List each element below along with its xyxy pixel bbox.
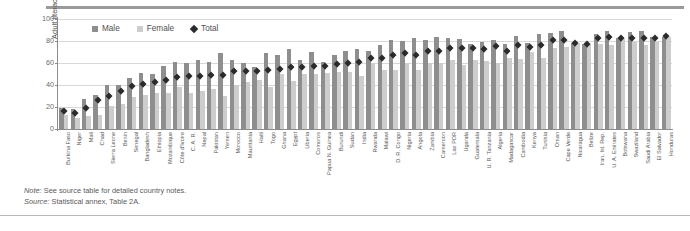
bar-female: [177, 87, 182, 129]
bar-female: [246, 82, 251, 129]
bar-female: [359, 76, 364, 129]
bar-group[interactable]: [59, 19, 68, 129]
bar-group[interactable]: [525, 19, 534, 129]
bar-group[interactable]: [127, 19, 136, 129]
bar-group[interactable]: [423, 19, 432, 129]
bar-group[interactable]: [412, 19, 421, 129]
legend-item-total[interactable]: Total: [191, 24, 218, 33]
bar-group[interactable]: [173, 19, 182, 129]
x-axis-tick-label: Egypt: [293, 132, 299, 146]
bar-female: [428, 63, 433, 129]
x-axis-tick-label: Sudan: [350, 132, 356, 148]
bar-group[interactable]: [196, 19, 205, 129]
x-axis-tick-label: D. R. Congo: [396, 132, 402, 163]
bar-group[interactable]: [537, 19, 546, 129]
bar-group[interactable]: [366, 19, 375, 129]
diamond-marker-total: [503, 47, 511, 55]
bar-female: [462, 65, 467, 129]
x-axis-tick-label: Morocco: [236, 132, 242, 153]
bar-group[interactable]: [480, 19, 489, 129]
bar-group[interactable]: [105, 19, 114, 129]
bar-group[interactable]: [264, 19, 273, 129]
bar-group[interactable]: [252, 19, 261, 129]
bar-group[interactable]: [184, 19, 193, 129]
x-axis-tick-label: Angola: [418, 132, 424, 149]
bar-group[interactable]: [71, 19, 80, 129]
bar-group[interactable]: [230, 19, 239, 129]
bar-group[interactable]: [548, 19, 557, 129]
bar-group[interactable]: [93, 19, 102, 129]
bar-female: [632, 42, 637, 129]
bar-group[interactable]: [343, 19, 352, 129]
bar-group[interactable]: [309, 19, 318, 129]
x-axis-tick-label: Papua N. Guinea: [327, 132, 333, 175]
bar-female: [564, 47, 569, 130]
bar-group[interactable]: [468, 19, 477, 129]
note-key: Note:: [24, 186, 42, 195]
bar-female: [64, 115, 69, 129]
x-axis-tick-label: Burundi: [339, 132, 345, 151]
bar-group[interactable]: [628, 19, 637, 129]
bar-female: [325, 73, 330, 129]
bar-group[interactable]: [378, 19, 387, 129]
y-axis-tick-label: 0: [24, 125, 54, 132]
x-axis-tick-label: Ethiopia: [157, 132, 163, 152]
bar-female: [155, 93, 160, 129]
bar-group[interactable]: [298, 19, 307, 129]
x-axis-tick-label: Cape Verde: [566, 132, 572, 162]
bar-group[interactable]: [605, 19, 614, 129]
bar-group[interactable]: [400, 19, 409, 129]
bar-group[interactable]: [434, 19, 443, 129]
bar-group[interactable]: [332, 19, 341, 129]
legend-item-male[interactable]: Male: [92, 24, 120, 33]
bar-group[interactable]: [355, 19, 364, 129]
bar-group[interactable]: [616, 19, 625, 129]
bar-group[interactable]: [503, 19, 512, 129]
bar-female: [609, 45, 614, 129]
bar-female: [507, 58, 512, 130]
bar-group[interactable]: [446, 19, 455, 129]
bar-female: [530, 52, 535, 129]
bar-group[interactable]: [662, 19, 671, 129]
diamond-marker-total: [105, 92, 113, 100]
bar-group[interactable]: [287, 19, 296, 129]
bar-group[interactable]: [207, 19, 216, 129]
x-axis-tick-label: Saudi Arabia: [646, 132, 652, 164]
bar-group[interactable]: [116, 19, 125, 129]
bar-female: [268, 87, 273, 129]
bar-series-container: [58, 19, 672, 129]
x-axis-tick-label: Haiti: [259, 132, 265, 143]
bar-group[interactable]: [457, 19, 466, 129]
bar-group[interactable]: [389, 19, 398, 129]
bar-group[interactable]: [82, 19, 91, 129]
bar-group[interactable]: [491, 19, 500, 129]
bar-female: [348, 72, 353, 129]
bar-group[interactable]: [559, 19, 568, 129]
bar-group[interactable]: [321, 19, 330, 129]
bar-female: [439, 63, 444, 129]
bar-group[interactable]: [150, 19, 159, 129]
x-axis-tick-label: Oman: [555, 132, 561, 147]
x-axis-line: [57, 129, 673, 130]
bar-female: [337, 72, 342, 129]
bar-group[interactable]: [582, 19, 591, 129]
bar-group[interactable]: [514, 19, 523, 129]
diamond-marker-total: [356, 58, 364, 66]
x-axis-tick-label: U. A. Emirates: [612, 132, 618, 168]
legend-label-female: Female: [147, 24, 174, 33]
x-axis-tick-label: Cambodia: [521, 132, 527, 158]
bar-group[interactable]: [650, 19, 659, 129]
bar-group[interactable]: [139, 19, 148, 129]
bar-group[interactable]: [241, 19, 250, 129]
bar-group[interactable]: [571, 19, 580, 129]
x-axis-tick-label: Burkina Faso: [66, 132, 72, 165]
bar-group[interactable]: [218, 19, 227, 129]
y-axis-tick-label: 20: [24, 103, 54, 110]
bar-female: [553, 48, 558, 129]
bar-group[interactable]: [639, 19, 648, 129]
bar-group[interactable]: [161, 19, 170, 129]
bar-group[interactable]: [594, 19, 603, 129]
source-text: Statistical annex, Table 2A.: [49, 197, 140, 206]
bar-group[interactable]: [275, 19, 284, 129]
legend-item-female[interactable]: Female: [137, 24, 174, 33]
